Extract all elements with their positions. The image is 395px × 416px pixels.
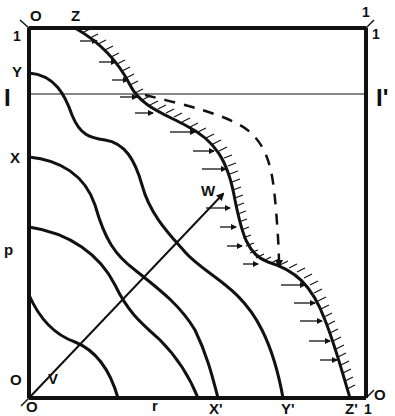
label-top-right-1: 1 xyxy=(362,5,370,19)
label-Z-prime: Z' xyxy=(345,401,358,416)
label-bottom-right-O: O xyxy=(374,387,386,402)
diagram-canvas xyxy=(0,0,395,416)
label-W: W xyxy=(201,183,215,198)
label-below-O: O xyxy=(26,399,38,414)
label-left-1: 1 xyxy=(13,29,21,43)
label-top-left-O: O xyxy=(30,8,42,23)
label-right-corner-1: 1 xyxy=(372,27,380,41)
frame xyxy=(20,20,374,406)
label-Y-prime: Y' xyxy=(281,401,295,416)
boundary-Z xyxy=(75,28,355,398)
label-Z: Z xyxy=(71,8,80,23)
label-X-prime: X' xyxy=(209,401,223,416)
label-X: X xyxy=(10,150,20,165)
vector-V-W xyxy=(29,194,223,398)
curve-X xyxy=(29,157,218,398)
label-V: V xyxy=(48,371,58,386)
label-I-prime: I' xyxy=(376,86,388,110)
label-bottom-left-O: O xyxy=(10,372,22,387)
dashed-path xyxy=(145,95,279,266)
label-I: I xyxy=(4,86,11,110)
label-r: r xyxy=(152,398,158,413)
label-Y: Y xyxy=(12,64,22,79)
label-p: p xyxy=(4,242,13,257)
label-bottom-right-1: 1 xyxy=(364,402,372,416)
